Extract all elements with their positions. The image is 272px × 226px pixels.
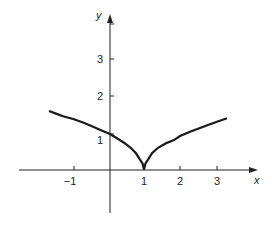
curve-line — [49, 111, 227, 170]
y-ticks — [110, 24, 114, 134]
y-tick-label: 1 — [97, 134, 103, 146]
x-axis-arrow-icon — [249, 167, 258, 173]
x-tick-label: 3 — [214, 175, 220, 187]
x-tick-label: 1 — [141, 175, 147, 187]
x-tick-label: −1 — [64, 175, 77, 187]
x-tick-label: 2 — [177, 175, 183, 187]
y-axis-label: y — [95, 9, 103, 21]
chart-canvas: −1 1 2 3 1 2 3 x y — [0, 0, 272, 226]
y-tick-label: 2 — [97, 90, 103, 102]
x-axis-label: x — [253, 174, 260, 186]
y-tick-label: 3 — [97, 53, 103, 65]
y-axis-arrow-icon — [107, 14, 113, 23]
